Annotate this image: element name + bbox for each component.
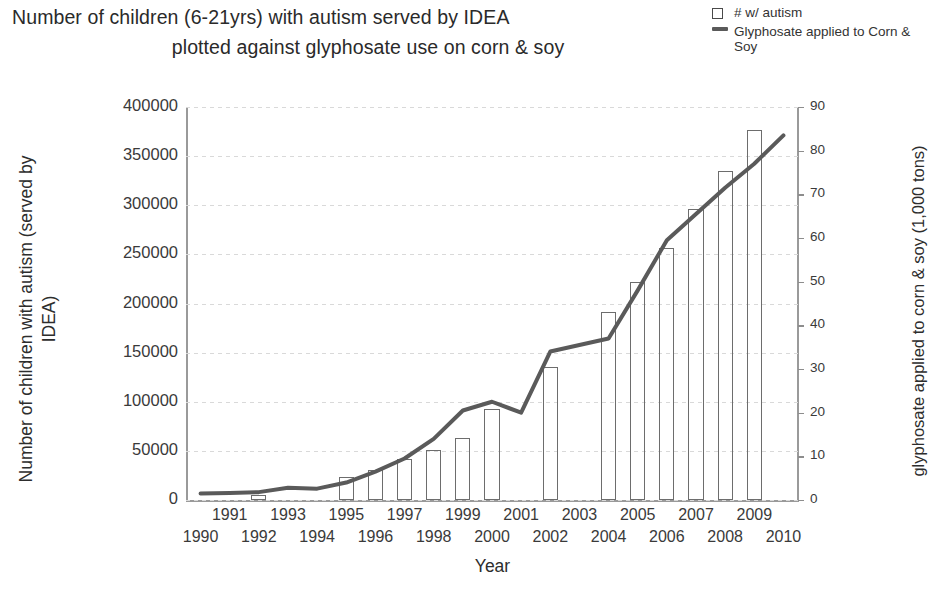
y-axis-right-tick [798,456,804,457]
y-axis-right-tick-label: 90 [810,98,870,113]
x-axis-tick-label: 1997 [376,506,434,524]
y-axis-right-tick-label: 70 [810,185,870,200]
y-axis-right-tick-label: 40 [810,316,870,331]
x-axis-tick-label: 1998 [405,528,463,546]
x-axis-tick-label: 1995 [317,506,375,524]
y-axis-right-tick [798,369,804,370]
y-axis-left-tick-label: 100000 [58,391,178,410]
x-axis-tick-label: 2000 [463,528,521,546]
y-axis-right-tick-label: 60 [810,229,870,244]
y-axis-right-tick [798,194,804,195]
y-axis-left-tick-label: 250000 [58,243,178,262]
x-axis-tick-label: 2004 [580,528,638,546]
x-axis-tick-label: 2007 [667,506,725,524]
y-axis-left-tick-label: 300000 [58,194,178,213]
x-axis-tick-label: 1991 [201,506,259,524]
y-axis-right-tick-label: 10 [810,447,870,462]
y-axis-right-tick [798,282,804,283]
y-axis-right-tick-label: 20 [810,404,870,419]
glyphosate-line [201,135,784,493]
y-axis-right-tick [798,107,804,108]
y-axis-right-tick [798,413,804,414]
y-axis-right-tick [798,238,804,239]
gridline [186,500,798,501]
x-axis-tick-label: 1993 [259,506,317,524]
x-axis-tick-label: 2005 [609,506,667,524]
y-axis-right-tick [798,500,804,501]
y-axis-right-tick [798,325,804,326]
plot-area [186,107,798,500]
y-axis-left-tick-label: 400000 [58,96,178,115]
x-axis-title: Year [186,556,799,577]
y-axis-right-tick [798,151,804,152]
x-axis-tick-label: 2003 [550,506,608,524]
line-series [186,107,798,500]
x-axis-tick-label: 2008 [696,528,754,546]
y-axis-left-tick-label: 150000 [58,342,178,361]
x-axis-tick-label: 1992 [230,528,288,546]
x-axis-tick-label: 2006 [638,528,696,546]
y-axis-left-title: Number of children with autism (served b… [15,139,61,499]
x-axis-tick-label: 1996 [346,528,404,546]
x-axis-tick-label: 1994 [288,528,346,546]
x-axis-tick-label: 2009 [725,506,783,524]
x-axis-tick-label: 2010 [754,528,812,546]
x-axis-tick-label: 2001 [492,506,550,524]
y-axis-left-tick-label: 0 [58,489,178,508]
y-axis-right-title: glyphosate applied to corn & soy (1,000 … [907,131,929,491]
y-axis-right-tick-label: 80 [810,142,870,157]
x-axis-tick-label: 1999 [434,506,492,524]
x-axis-tick-label: 2002 [521,528,579,546]
y-axis-right-tick-label: 50 [810,273,870,288]
y-axis-right-tick-label: 30 [810,360,870,375]
x-axis-tick-label: 1990 [172,528,230,546]
y-axis-left-tick-label: 200000 [58,293,178,312]
y-axis-right-tick-label: 0 [810,491,870,506]
y-axis-left-tick-label: 50000 [58,440,178,459]
y-axis-left-tick-label: 350000 [58,145,178,164]
